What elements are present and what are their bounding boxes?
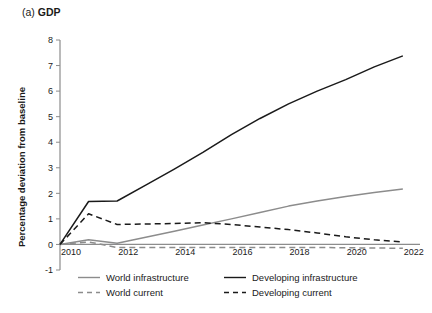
y-axis-tick-label: 4 <box>48 137 53 147</box>
chart-legend: World infrastructure Developing infrastr… <box>78 270 408 300</box>
x-axis-tick-label: 2022 <box>404 247 424 257</box>
legend-item-developing-infrastructure: Developing infrastructure <box>224 272 358 283</box>
y-axis-tick-label: 6 <box>48 86 53 96</box>
legend-key-solid-icon <box>224 273 246 282</box>
y-axis-tick-label: 1 <box>48 214 53 224</box>
legend-item-developing-current: Developing current <box>224 287 332 298</box>
legend-key-dashed-icon <box>224 288 246 297</box>
legend-item-world-infrastructure: World infrastructure <box>78 272 224 283</box>
chart-axes <box>56 40 420 270</box>
legend-key-solid-icon <box>78 273 100 282</box>
y-axis-tick-label: 2 <box>48 189 53 199</box>
legend-label: Developing infrastructure <box>252 272 358 283</box>
x-axis-tick-label: 2014 <box>175 247 195 257</box>
y-axis-tick-label: -1 <box>45 265 53 275</box>
series-line-developing-infrastructure <box>60 56 403 245</box>
chart-canvas: -10123456782010201220142016201820202022 <box>0 0 432 313</box>
figure-panel-gdp: (a) GDP Percentage deviation from baseli… <box>0 0 432 313</box>
x-axis-tick-label: 2010 <box>61 247 81 257</box>
series-line-world-infrastructure <box>60 189 403 244</box>
x-axis-tick-label: 2020 <box>347 247 367 257</box>
legend-key-dashed-icon <box>78 288 100 297</box>
y-axis-tick-label: 0 <box>48 240 53 250</box>
legend-label: World infrastructure <box>106 272 189 283</box>
x-axis-tick-label: 2012 <box>118 247 138 257</box>
y-axis-tick-label: 8 <box>48 35 53 45</box>
y-axis-tick-label: 5 <box>48 112 53 122</box>
legend-item-world-current: World current <box>78 287 224 298</box>
y-axis-tick-label: 3 <box>48 163 53 173</box>
x-axis-tick-label: 2016 <box>232 247 252 257</box>
legend-row: World infrastructure Developing infrastr… <box>78 270 408 285</box>
chart-series <box>60 56 403 248</box>
x-axis-tick-label: 2018 <box>290 247 310 257</box>
y-axis-tick-label: 7 <box>48 61 53 71</box>
legend-label: Developing current <box>252 287 332 298</box>
legend-label: World current <box>106 287 163 298</box>
legend-row: World current Developing current <box>78 285 408 300</box>
